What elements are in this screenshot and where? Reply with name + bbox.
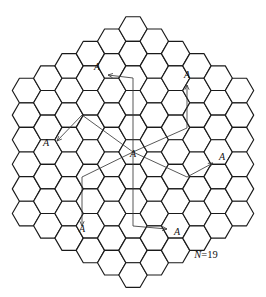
cell-label-center: A (129, 148, 137, 159)
caption-value: =19 (201, 249, 217, 260)
cluster-size-caption: N=19 (193, 249, 217, 260)
reuse-diagram-figure: AAAAAAA N=19 (0, 0, 266, 297)
hexagon-cell-grid: AAAAAAA N=19 (0, 0, 266, 297)
cell-label-cochannel-upper-right: A (183, 69, 191, 80)
cell-label-cochannel-lower-left: A (78, 223, 86, 234)
cell-label-cochannel-lower-right: A (173, 226, 181, 237)
cell-label-cochannel-upper-left: A (93, 61, 101, 72)
cell-label-cochannel-left: A (42, 137, 50, 148)
cell-label-cochannel-right: A (218, 151, 226, 162)
